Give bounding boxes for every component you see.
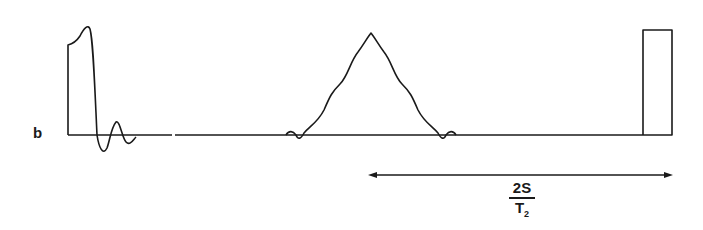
panel-label: b <box>33 124 42 141</box>
left-pulse <box>68 27 136 151</box>
interval-numerator: 2S <box>509 180 535 199</box>
denominator-main: T <box>515 199 524 216</box>
arrow-head-right <box>664 172 673 178</box>
arrow-head-left <box>368 172 377 178</box>
right-pulse <box>643 30 672 135</box>
interval-label: 2S T2 <box>509 180 535 223</box>
interval-denominator: T2 <box>509 199 535 223</box>
waveform-diagram <box>0 0 703 230</box>
denominator-subscript: 2 <box>524 209 529 219</box>
central-echo <box>286 33 456 138</box>
